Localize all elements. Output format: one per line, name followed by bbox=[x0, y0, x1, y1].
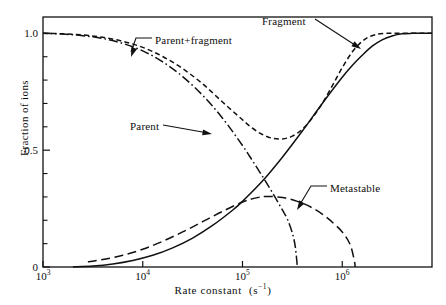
x-axis-label-text: Rate constant bbox=[175, 284, 242, 296]
x-axis-label-units: (s−1) bbox=[249, 284, 272, 296]
y-tick-label: 0.5 bbox=[10, 144, 38, 156]
parent-label-arrowhead bbox=[202, 129, 212, 135]
fragment-label-leader bbox=[315, 19, 358, 47]
curve-metastable bbox=[88, 196, 355, 267]
x-axis-label: Rate constant(s−1) bbox=[0, 284, 446, 296]
metastable-label: Metastable bbox=[330, 182, 380, 194]
fragment-label: Fragment bbox=[262, 15, 306, 27]
plot-frame bbox=[43, 17, 432, 267]
parent-label-leader bbox=[163, 125, 208, 133]
fragment-label-arrowhead bbox=[351, 41, 361, 49]
x-tick-label: 105 bbox=[235, 270, 250, 282]
y-tick-label: 1.0 bbox=[10, 27, 38, 39]
chart-figure: Fraction of ions Rate constant(s−1) 1031… bbox=[0, 0, 446, 305]
curve-parent bbox=[43, 33, 297, 267]
parent-label: Parent bbox=[130, 120, 159, 132]
curve-parent-fragment bbox=[43, 33, 432, 139]
parent-fragment-label: Parent+fragment bbox=[155, 34, 232, 46]
curve-fragment bbox=[73, 33, 432, 267]
y-tick-label: 0 bbox=[10, 261, 38, 273]
x-tick-label: 104 bbox=[135, 270, 150, 282]
x-tick-label: 106 bbox=[335, 270, 350, 282]
y-axis-label: Fraction of ions bbox=[18, 38, 30, 198]
